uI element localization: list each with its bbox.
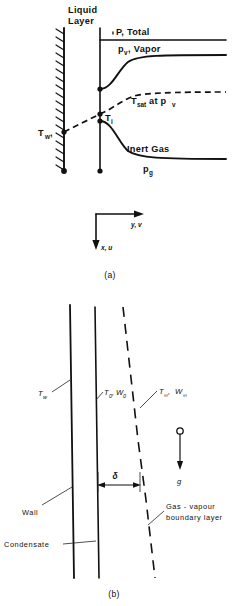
wall-label-group: Wall bbox=[22, 487, 72, 517]
axis-y-arrowhead bbox=[134, 210, 144, 217]
gas-vapour-boundary-dashed-line bbox=[123, 307, 155, 578]
t-sat-pressure-subscript: v bbox=[172, 101, 176, 108]
condensate-leader-line bbox=[63, 541, 96, 544]
t-wall-leader-line bbox=[52, 380, 70, 392]
gravity-label: g bbox=[177, 477, 182, 486]
caption-panel-b: (b) bbox=[108, 589, 120, 599]
t-wall-label-panel-b: T w bbox=[38, 380, 70, 400]
axis-x-arrowhead bbox=[92, 240, 99, 250]
dot-wall-base bbox=[61, 168, 67, 174]
t-zero-w-zero-label: T 0 , W 0 bbox=[96, 388, 126, 400]
t-inf-leader-line bbox=[140, 391, 157, 408]
liquid-layer-label-line1: Liquid bbox=[68, 5, 97, 15]
w-zero-subscript: 0 bbox=[123, 393, 126, 399]
t-interface-subscript: i bbox=[111, 118, 113, 125]
t-wall-label-panel-a: T w , bbox=[38, 128, 53, 140]
gravity-circle-icon bbox=[177, 428, 183, 434]
dot-vapor-interface bbox=[97, 86, 102, 91]
t-zero-w-zero-separator: , bbox=[112, 388, 114, 397]
dot-interface-temperature bbox=[97, 111, 102, 116]
condensate-edge-line bbox=[95, 307, 99, 578]
vapor-pressure-label: p v , Vapor bbox=[118, 44, 161, 56]
boundary-layer-label-line2: boundary layer bbox=[166, 513, 223, 522]
condensate-label-group: Condensate bbox=[4, 540, 96, 549]
gravity-arrowhead-icon bbox=[177, 461, 183, 470]
vapor-pressure-text: , Vapor bbox=[128, 44, 161, 54]
t-inf-w-inf-separator: , bbox=[168, 387, 170, 396]
t-wall-symbol: T bbox=[38, 128, 44, 138]
gas-pressure-label: p g bbox=[143, 164, 153, 177]
axis-y-label: y, v bbox=[130, 221, 142, 229]
caption-panel-a: (a) bbox=[104, 270, 116, 280]
liquid-layer-label-line2: Layer bbox=[68, 16, 94, 26]
t-sat-label: T sat at p v bbox=[131, 96, 176, 108]
vapor-pressure-curve bbox=[100, 55, 226, 89]
t-sat-dashed-curve bbox=[64, 92, 226, 132]
t-wall-comma: , bbox=[50, 128, 53, 138]
figure-container: Liquid Layer P, Total p v , Vapor T sat … bbox=[0, 0, 238, 606]
dot-interface-base bbox=[97, 168, 102, 173]
t-sat-at-text: at p bbox=[149, 96, 167, 106]
w-inf-subscript: ∞ bbox=[183, 392, 187, 398]
wall-leader-line bbox=[42, 487, 72, 505]
wall-label: Wall bbox=[22, 508, 38, 517]
condensation-diagram-svg: Liquid Layer P, Total p v , Vapor T sat … bbox=[0, 0, 238, 606]
inert-gas-label: Inert Gas bbox=[127, 144, 170, 154]
t-inf-w-inf-label: T ∞ , W ∞ bbox=[140, 387, 187, 408]
total-pressure-label: P, Total bbox=[116, 27, 150, 37]
wall-hatched-panel-a bbox=[56, 28, 64, 172]
w-inf-symbol: W bbox=[175, 387, 183, 396]
boundary-layer-label-group: Gas - vapour boundary layer bbox=[148, 502, 223, 525]
t-wall-subscript-b: w bbox=[43, 394, 48, 400]
delta-label: δ bbox=[112, 471, 118, 481]
gas-pressure-subscript: g bbox=[149, 169, 153, 177]
delta-dimension: δ bbox=[97, 471, 141, 492]
boundary-layer-leader-line bbox=[148, 511, 164, 525]
panel-a: Liquid Layer P, Total p v , Vapor T sat … bbox=[38, 5, 226, 280]
wall-line-panel-b bbox=[70, 305, 74, 578]
t-sat-subscript: sat bbox=[137, 101, 147, 108]
coordinate-axes-panel-a: y, v x, u bbox=[92, 210, 144, 252]
condensate-label: Condensate bbox=[4, 540, 49, 549]
gravity-indicator: g bbox=[177, 428, 183, 486]
axis-x-label: x, u bbox=[100, 244, 112, 252]
dot-gas-interface bbox=[97, 118, 102, 123]
dot-wall-temperature bbox=[61, 129, 66, 134]
boundary-layer-label-line1: Gas - vapour bbox=[166, 502, 215, 511]
panel-b: T w T 0 , W 0 T ∞ , W ∞ bbox=[4, 305, 223, 599]
